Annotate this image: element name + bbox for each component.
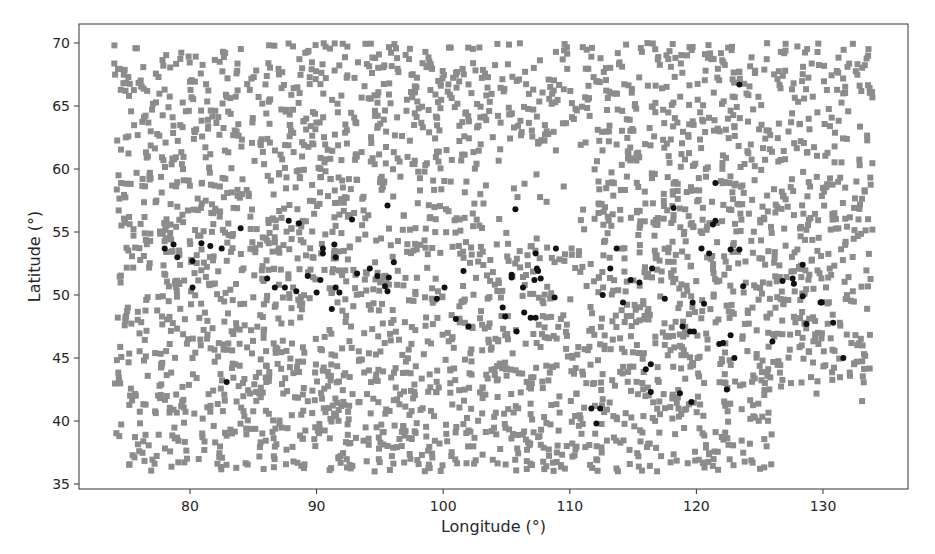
gray-square-point [840,200,846,206]
gray-square-point [492,366,498,372]
gray-square-point [445,81,451,87]
gray-square-point [355,236,361,242]
gray-square-point [127,81,133,87]
gray-square-point [286,142,292,148]
gray-square-point [417,175,423,181]
gray-square-point [653,83,659,89]
gray-square-point [521,104,527,110]
gray-square-point [198,108,204,114]
gray-square-point [587,113,593,119]
gray-square-point [569,246,575,252]
gray-square-point [744,348,750,354]
gray-square-point [295,395,301,401]
gray-square-point [414,275,420,281]
gray-square-point [253,374,259,380]
black-circle-point [272,284,278,290]
gray-square-point [184,341,190,347]
gray-square-point [340,41,346,47]
gray-square-point [359,196,365,202]
gray-square-point [529,417,535,423]
x-tick-label: 80 [181,498,199,514]
gray-square-point [695,81,701,87]
gray-square-point [114,138,120,144]
gray-square-point [344,141,350,147]
gray-square-point [152,350,158,356]
gray-square-point [332,353,338,359]
gray-square-point [395,69,401,75]
gray-square-point [860,342,866,348]
gray-square-point [334,379,340,385]
gray-square-point [867,332,873,338]
gray-square-point [538,344,544,350]
gray-square-point [769,431,775,437]
gray-square-point [816,235,822,241]
gray-square-point [480,395,486,401]
gray-square-point [392,423,398,429]
gray-square-point [309,59,315,65]
gray-square-point [198,301,204,307]
gray-square-point [681,231,687,237]
black-circle-point [198,240,204,246]
gray-square-point [563,346,569,352]
black-circle-point [296,220,302,226]
gray-square-point [190,371,196,377]
gray-square-point [128,108,134,114]
gray-square-point [294,206,300,212]
gray-square-point [221,194,227,200]
gray-square-point [348,186,354,192]
gray-square-point [542,138,548,144]
gray-square-point [429,455,435,461]
gray-square-point [749,197,755,203]
gray-square-point [261,335,267,341]
gray-square-point [637,225,643,231]
black-circle-point [336,290,342,296]
gray-square-point [706,115,712,121]
gray-square-point [584,283,590,289]
gray-square-point [434,368,440,374]
gray-square-point [303,218,309,224]
gray-square-point [221,54,227,60]
gray-square-point [235,121,241,127]
gray-square-point [270,249,276,255]
gray-square-point [809,237,815,243]
gray-square-point [506,42,512,48]
gray-square-point [776,262,782,268]
gray-square-point [699,230,705,236]
gray-square-point [325,193,331,199]
gray-square-point [223,92,229,98]
gray-square-point [590,381,596,387]
gray-square-point [528,386,534,392]
gray-square-point [801,140,807,146]
gray-square-point [423,424,429,430]
gray-square-point [140,438,146,444]
gray-square-point [126,462,132,468]
gray-square-point [711,128,717,134]
gray-square-point [162,87,168,93]
gray-square-point [170,130,176,136]
gray-square-point [169,183,175,189]
gray-square-point [164,216,170,222]
gray-square-point [217,184,223,190]
gray-square-point [423,245,429,251]
gray-square-point [253,68,259,74]
gray-square-point [512,261,518,267]
gray-square-point [249,119,255,125]
gray-square-point [377,349,383,355]
gray-square-point [787,332,793,338]
gray-square-point [366,63,372,69]
y-tick-label: 70 [52,35,70,51]
gray-square-point [719,218,725,224]
gray-square-point [656,379,662,385]
gray-square-point [433,216,439,222]
gray-square-point [444,147,450,153]
gray-square-point [542,122,548,128]
black-circle-point [643,366,649,372]
gray-square-point [335,109,341,115]
gray-square-point [287,356,293,362]
gray-square-point [377,440,383,446]
gray-square-point [342,122,348,128]
gray-square-point [456,138,462,144]
gray-square-point [478,141,484,147]
gray-square-point [845,108,851,114]
gray-square-point [311,211,317,217]
